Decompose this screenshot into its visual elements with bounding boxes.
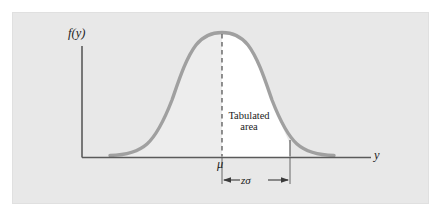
left-tail-region bbox=[112, 33, 222, 157]
z-sigma-double-arrow bbox=[223, 177, 289, 183]
tabulated-area-fill bbox=[222, 33, 290, 157]
tabulated-area-label-line2: area bbox=[214, 121, 284, 132]
y-axis-label: f(y) bbox=[68, 27, 85, 40]
tabulated-area-label: Tabulatedarea bbox=[214, 110, 284, 132]
mean-label: μ bbox=[217, 158, 223, 171]
arrow-head-left bbox=[223, 177, 231, 183]
normal-curve-plot bbox=[0, 0, 445, 216]
figure-root: f(y) y μ zσ Tabulatedarea bbox=[0, 0, 445, 216]
arrow-head-right bbox=[281, 177, 289, 183]
tabulated-area-label-line1: Tabulated bbox=[228, 110, 269, 121]
x-axis-label: y bbox=[374, 149, 380, 162]
z-sigma-label: zσ bbox=[241, 175, 251, 187]
